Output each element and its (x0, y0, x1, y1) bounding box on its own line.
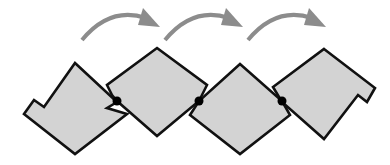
arrow-head (138, 8, 160, 27)
tile-3 (190, 64, 290, 154)
tile-4 (273, 49, 375, 139)
tile-1 (24, 63, 127, 154)
arrow-shaft (82, 15, 146, 40)
curved-arrow-icon (248, 8, 326, 40)
hinge-3-dot (278, 97, 287, 106)
curved-arrow-icon (82, 8, 160, 40)
hinged-tiles-diagram: Chain of four hinged tiles rotating in s… (0, 0, 390, 165)
arrow-shaft (248, 15, 312, 40)
hinge-1-dot (113, 97, 122, 106)
diagram-canvas (0, 0, 390, 165)
tile-2 (107, 48, 207, 136)
curved-arrow-icon (165, 8, 243, 40)
rotation-arrows (82, 8, 326, 40)
hinge-2-dot (195, 97, 204, 106)
arrow-shaft (165, 15, 229, 40)
arrow-head (304, 8, 326, 27)
arrow-head (221, 8, 243, 27)
